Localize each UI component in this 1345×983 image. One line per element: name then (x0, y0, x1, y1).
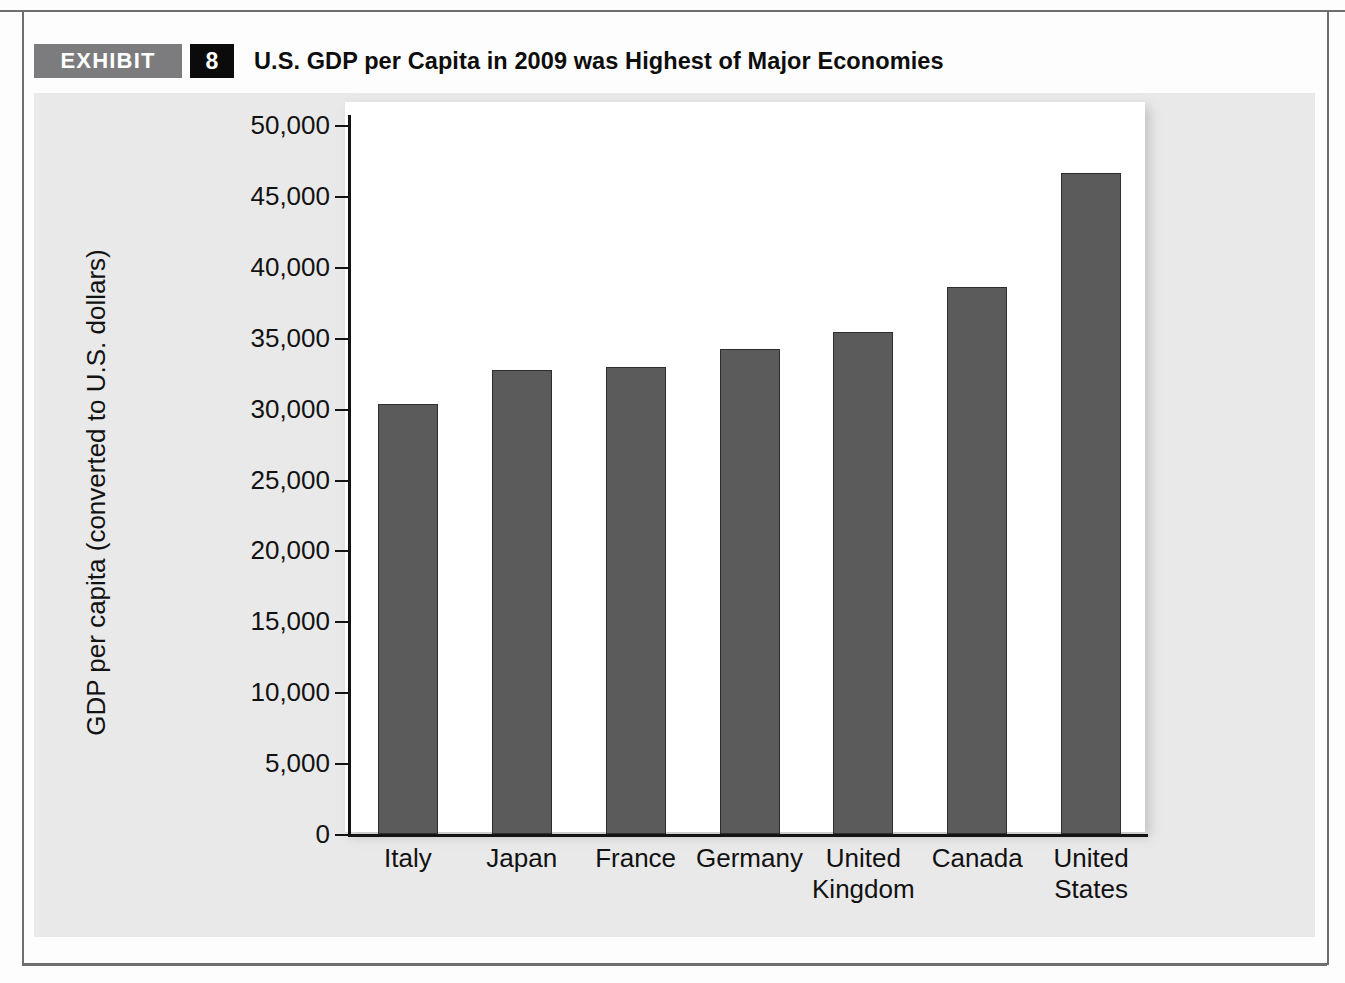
page-rule-left (22, 10, 24, 965)
y-axis-tick (335, 125, 348, 127)
exhibit-number-badge: 8 (190, 44, 234, 78)
bar-germany (720, 349, 780, 834)
footnote-sliver (26, 970, 1324, 982)
y-axis-tick-label: 5,000 (265, 748, 330, 779)
y-axis-tick (335, 267, 348, 269)
y-axis-tick (335, 196, 348, 198)
bar-series (351, 93, 1148, 937)
chart-panel: 05,00010,00015,00020,00025,00030,00035,0… (34, 93, 1315, 937)
y-axis-tick (335, 621, 348, 623)
x-axis-label-japan: Japan (465, 843, 579, 874)
y-axis-tick-label: 15,000 (250, 606, 330, 637)
x-axis-label-germany: Germany (693, 843, 807, 874)
y-axis-tick-labels: 05,00010,00015,00020,00025,00030,00035,0… (34, 93, 330, 937)
page-rule-top (0, 10, 1345, 12)
page-rule-right (1327, 10, 1329, 965)
bar-canada (947, 287, 1007, 834)
y-axis-tick (335, 480, 348, 482)
y-axis-tick (335, 550, 348, 552)
y-axis-tick (335, 692, 348, 694)
exhibit-page: EXHIBIT 8 U.S. GDP per Capita in 2009 wa… (0, 0, 1345, 983)
x-axis-label-canada: Canada (920, 843, 1034, 874)
x-axis-label-united-states: UnitedStates (1034, 843, 1148, 905)
y-axis-tick (335, 409, 348, 411)
bar-france (606, 367, 666, 834)
y-axis-tick-label: 35,000 (250, 322, 330, 353)
y-axis-tick-label: 25,000 (250, 464, 330, 495)
y-axis-tick-label: 20,000 (250, 535, 330, 566)
y-axis-tick-label: 50,000 (250, 110, 330, 141)
y-axis-tick-label: 10,000 (250, 677, 330, 708)
exhibit-badge: EXHIBIT (34, 44, 182, 78)
y-axis-title: GDP per capita (converted to U.S. dollar… (81, 193, 112, 793)
y-axis-tick (335, 834, 348, 836)
bar-united-states (1061, 173, 1121, 834)
y-axis-tick-label: 45,000 (250, 180, 330, 211)
bar-italy (378, 404, 438, 834)
x-axis-label-france: France (579, 843, 693, 874)
exhibit-title: U.S. GDP per Capita in 2009 was Highest … (254, 48, 944, 75)
page-rule-bottom (22, 963, 1327, 966)
y-axis-tick-label: 0 (316, 819, 330, 850)
x-axis-label-united-kingdom: UnitedKingdom (806, 843, 920, 905)
x-axis-label-italy: Italy (351, 843, 465, 874)
x-axis-tick-labels: ItalyJapanFranceGermanyUnitedKingdomCana… (351, 843, 1148, 933)
y-axis-tick-label: 30,000 (250, 393, 330, 424)
y-axis-tick-label: 40,000 (250, 251, 330, 282)
bar-united-kingdom (833, 332, 893, 834)
bar-japan (492, 370, 552, 834)
exhibit-header: EXHIBIT 8 U.S. GDP per Capita in 2009 wa… (34, 42, 944, 80)
y-axis-tick (335, 763, 348, 765)
y-axis-tick (335, 338, 348, 340)
